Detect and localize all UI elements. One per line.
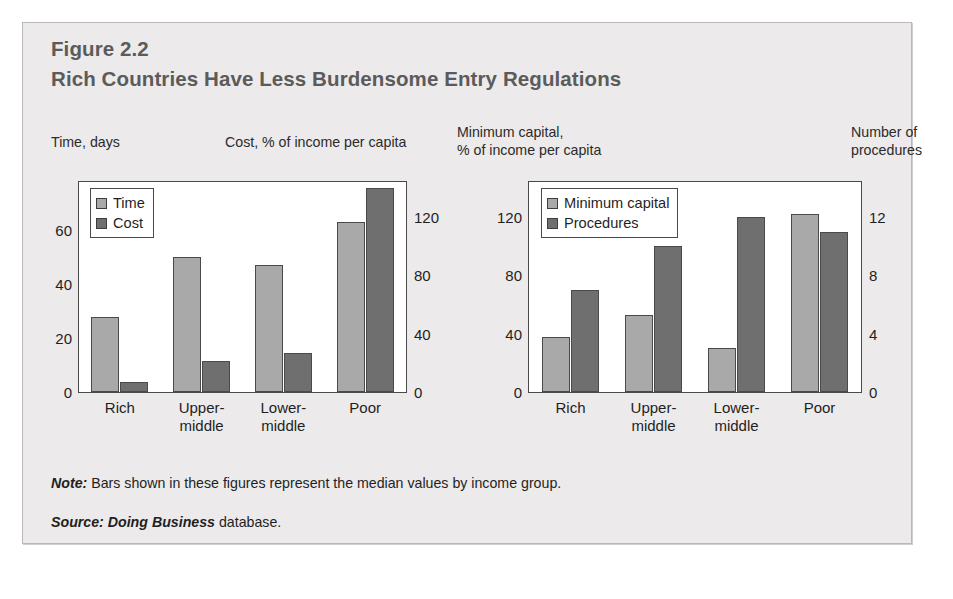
- bar-right-minimum-capital-upper-middle: [625, 315, 653, 392]
- legend-item-procedures: Procedures: [547, 213, 669, 233]
- ytick-left-left-0: 0: [64, 385, 72, 400]
- left-chart-primary-axis-caption: Time, days: [51, 133, 120, 151]
- ytick-right-left-0: 0: [414, 385, 422, 400]
- bar-right-minimum-capital-rich: [542, 337, 570, 392]
- category-label-right-upper-middle: Upper- middle: [631, 399, 677, 435]
- bar-right-procedures-poor: [820, 232, 848, 392]
- category-label-right-lower-middle: Lower- middle: [714, 399, 760, 435]
- bar-left-time-poor: [337, 222, 365, 392]
- ytick-left-right-80: 80: [505, 268, 522, 283]
- ytick-left-left-60: 60: [55, 223, 72, 238]
- right-chart-secondary-axis-caption: Number of procedures: [851, 123, 922, 159]
- bar-left-cost-upper-middle: [202, 361, 230, 392]
- bar-left-time-upper-middle: [173, 257, 201, 392]
- ytick-right-right-0: 0: [869, 385, 877, 400]
- category-label-right-rich: Rich: [555, 399, 585, 417]
- ytick-left-left-40: 40: [55, 277, 72, 292]
- ytick-left-right-0: 0: [514, 385, 522, 400]
- figure-note: Note: Bars shown in these figures repres…: [51, 475, 561, 491]
- category-label-left-lower-middle: Lower- middle: [260, 399, 306, 435]
- ytick-right-left-80: 80: [414, 268, 431, 283]
- ytick-right-right-12: 12: [869, 210, 886, 225]
- bar-right-procedures-rich: [571, 290, 599, 392]
- legend-item-minimum-capital: Minimum capital: [547, 193, 669, 213]
- source-publication: Doing Business: [104, 514, 215, 530]
- note-text: Bars shown in these figures represent th…: [87, 475, 561, 491]
- chart-panel-right: RichUpper- middleLower- middlePoor040801…: [528, 181, 862, 393]
- ytick-right-left-120: 120: [414, 210, 439, 225]
- ytick-left-right-120: 120: [497, 210, 522, 225]
- category-label-left-rich: Rich: [105, 399, 135, 417]
- legend-label-procedures: Procedures: [564, 215, 639, 231]
- figure-source: Source: Doing Business database.: [51, 514, 281, 530]
- ytick-right-left-40: 40: [414, 326, 431, 341]
- source-prefix: Source:: [51, 514, 104, 530]
- legend-left: Time Cost: [90, 188, 154, 238]
- figure-number: Figure 2.2: [51, 37, 149, 61]
- left-chart-secondary-axis-caption: Cost, % of income per capita: [225, 133, 406, 151]
- bar-left-cost-poor: [366, 188, 394, 392]
- legend-label-time: Time: [113, 195, 145, 211]
- ytick-right-right-8: 8: [869, 268, 877, 283]
- note-prefix: Note:: [51, 475, 87, 491]
- bar-left-cost-lower-middle: [284, 353, 312, 392]
- bar-left-time-lower-middle: [255, 265, 283, 392]
- chart-panel-left: RichUpper- middleLower- middlePoor020406…: [78, 181, 407, 393]
- category-label-left-poor: Poor: [349, 399, 381, 417]
- bar-left-cost-rich: [120, 382, 148, 392]
- legend-swatch-icon-time: [96, 198, 107, 209]
- right-chart-primary-axis-caption: Minimum capital, % of income per capita: [457, 123, 601, 159]
- ytick-left-left-20: 20: [55, 331, 72, 346]
- bar-right-procedures-lower-middle: [737, 217, 765, 392]
- legend-swatch-icon-minimum-capital: [547, 198, 558, 209]
- bar-right-minimum-capital-poor: [791, 214, 819, 392]
- legend-swatch-icon-cost: [96, 218, 107, 229]
- bar-right-procedures-upper-middle: [654, 246, 682, 392]
- ytick-right-right-4: 4: [869, 326, 877, 341]
- legend-item-time: Time: [96, 193, 145, 213]
- legend-swatch-icon-procedures: [547, 218, 558, 229]
- legend-label-minimum-capital: Minimum capital: [564, 195, 669, 211]
- legend-item-cost: Cost: [96, 213, 145, 233]
- source-text: database.: [215, 514, 281, 530]
- category-label-left-upper-middle: Upper- middle: [179, 399, 225, 435]
- figure-title: Rich Countries Have Less Burdensome Entr…: [51, 67, 621, 91]
- figure-container: Figure 2.2 Rich Countries Have Less Burd…: [22, 22, 912, 544]
- bar-right-minimum-capital-lower-middle: [708, 348, 736, 392]
- legend-label-cost: Cost: [113, 215, 143, 231]
- category-label-right-poor: Poor: [804, 399, 836, 417]
- ytick-left-right-40: 40: [505, 326, 522, 341]
- legend-right: Minimum capital Procedures: [541, 188, 678, 238]
- bar-left-time-rich: [91, 317, 119, 392]
